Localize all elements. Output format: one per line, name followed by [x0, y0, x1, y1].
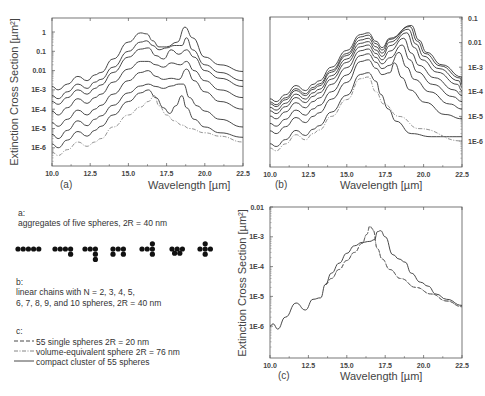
series-line-single-sphere — [270, 77, 462, 151]
x-tick-label: 17.5 — [160, 170, 174, 177]
aggregate-chain-L — [82, 246, 98, 262]
x-tick-label: 12.5 — [302, 171, 316, 178]
legend-a-text: aggregates of five spheres, 2R = 40 nm — [18, 218, 167, 228]
sphere-icon — [203, 246, 208, 251]
sphere-icon — [110, 246, 115, 251]
sphere-icon — [172, 251, 177, 256]
sphere-icon — [177, 251, 182, 256]
y-tick-label: 1E-6 — [468, 138, 483, 145]
legend-c-heading: c: — [16, 326, 23, 336]
x-axis-label: Wavelength [µm] — [340, 179, 422, 191]
sphere-icon — [110, 252, 115, 257]
x-axis-label: Wavelength [µm] — [148, 179, 230, 191]
sphere-icon — [93, 252, 98, 257]
y-tick-label: 0.01 — [32, 67, 46, 74]
legend-c-item-1: 55 single spheres 2R = 20 nm — [36, 337, 149, 347]
sphere-icon — [63, 246, 68, 251]
sphere-icon — [121, 252, 126, 257]
sphere-icon — [150, 252, 155, 257]
sphere-icon — [88, 246, 93, 251]
sphere-icon — [26, 246, 31, 251]
y-axis-label: Extinction Cross Section [µm²] — [8, 18, 20, 166]
sphere-icon — [15, 246, 20, 251]
sphere-icon — [93, 257, 98, 262]
y-tick-label: 1E-3 — [31, 86, 46, 93]
sphere-icon — [116, 246, 121, 251]
sphere-icon — [203, 252, 208, 257]
y-tick-label: 1E-3 — [468, 64, 483, 71]
series-group — [270, 226, 462, 329]
sphere-icon — [68, 246, 73, 251]
sphere-icon — [139, 246, 144, 251]
y-tick-label: 0.01 — [468, 39, 482, 46]
x-tick-label: 20.0 — [198, 170, 212, 177]
series-line-aggregate-5 — [52, 69, 243, 126]
y-tick-label: 1E-5 — [468, 113, 483, 120]
y-tick-label: 1E-6 — [249, 323, 264, 330]
aggregate-compact — [169, 246, 185, 255]
y-tick-label: 0.1 — [468, 15, 478, 22]
series-group — [270, 25, 462, 150]
x-tick-label: 22.5 — [236, 170, 250, 177]
aggregate-shapes — [15, 241, 213, 262]
x-tick-label: 15.0 — [340, 171, 354, 178]
sphere-icon — [31, 246, 36, 251]
y-axis-label: Extinction Cross Section [µm²] — [236, 209, 248, 357]
sphere-icon — [145, 246, 150, 251]
plot-frame — [270, 207, 462, 358]
series-line-aggregate-3 — [52, 48, 243, 104]
x-tick-label: 12.5 — [83, 170, 97, 177]
x-tick-label: 12.5 — [302, 362, 316, 369]
x-tick-label: 17.5 — [378, 171, 392, 178]
x-tick-label: 15.0 — [340, 362, 354, 369]
x-tick-label: 10.0 — [263, 171, 277, 178]
series-line-aggregate-4 — [52, 61, 243, 115]
aggregate-zigzag — [110, 246, 126, 256]
panel-label: (a) — [60, 179, 72, 190]
series-group — [52, 27, 243, 155]
series-line-compact-cluster-of-55-spheres — [270, 231, 462, 329]
aggregate-chain-bent-end — [52, 246, 73, 256]
y-tick-label: 1E-6 — [31, 144, 46, 151]
sphere-icon — [150, 241, 155, 246]
x-tick-label: 22.5 — [455, 362, 469, 369]
y-tick-label: 1E-3 — [249, 233, 264, 240]
x-tick-label: 20.0 — [417, 362, 431, 369]
series-line-n-5 — [270, 45, 462, 119]
y-tick-label: 0.01 — [250, 204, 264, 211]
x-tick-label: 10.0 — [45, 170, 59, 177]
series-line-55-single-spheres-2r-20-nm — [325, 226, 462, 307]
y-tick-label: 1 — [42, 29, 46, 36]
sphere-icon — [93, 246, 98, 251]
sphere-icon — [150, 246, 155, 251]
legend-b-heading: b: — [16, 277, 23, 287]
panel-a: 10.012.515.017.520.022.510.10.011E-31E-4… — [8, 18, 250, 191]
y-tick-label: 0.1 — [36, 48, 46, 55]
sphere-icon — [58, 246, 63, 251]
series-line-n-10 — [270, 25, 462, 101]
sphere-icon — [121, 246, 126, 251]
sphere-icon — [203, 241, 208, 246]
series-line-reference-sphere — [52, 96, 243, 156]
sphere-icon — [52, 246, 57, 251]
sphere-icon — [82, 246, 87, 251]
x-tick-label: 17.5 — [378, 362, 392, 369]
legend-c-samples — [14, 341, 34, 361]
x-tick-label: 10.0 — [263, 362, 277, 369]
sphere-icon — [208, 246, 213, 251]
x-axis-label: Wavelength [µm] — [340, 370, 422, 382]
aggregate-linear-chain — [15, 246, 41, 251]
aggregate-cross — [197, 241, 213, 257]
x-tick-label: 22.5 — [455, 171, 469, 178]
series-line-aggregate-1 — [52, 27, 243, 90]
legend-b-text-line1: linear chains with N = 2, 3, 4, 5, — [16, 287, 135, 297]
series-line-volume-equivalent-sphere-2r-76-nm — [325, 227, 462, 307]
legend-c-item-3: compact cluster of 55 spheres — [36, 357, 149, 367]
legend-a-heading: a: — [18, 208, 25, 218]
y-tick-label: 1E-4 — [31, 106, 46, 113]
series-line-n-2 — [270, 73, 462, 147]
panel-c: 10.012.515.017.520.022.50.011E-31E-41E-5… — [236, 204, 469, 383]
sphere-icon — [197, 246, 202, 251]
legend-c-item-2: volume-equivalent sphere 2R = 76 nm — [36, 347, 180, 357]
x-tick-label: 15.0 — [122, 170, 136, 177]
